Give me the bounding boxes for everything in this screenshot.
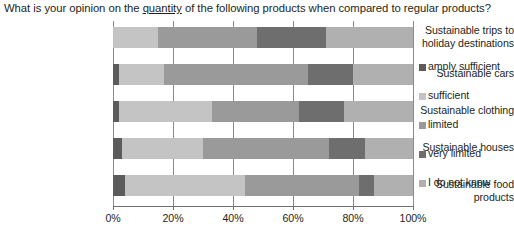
category-label: Sustainable trips toholiday destinations	[406, 24, 514, 49]
bar-row	[113, 27, 413, 48]
legend-label: I do not know	[428, 176, 490, 189]
chart-title-part1: What is your opinion on the	[4, 2, 143, 14]
legend-label: amply sufficient	[428, 60, 500, 73]
stacked-bar-chart: What is your opinion on the quantity of …	[0, 0, 514, 242]
legend-label: sufficient	[428, 89, 469, 102]
bar-segment	[158, 27, 257, 48]
chart-title-emphasis: quantity	[143, 2, 182, 14]
legend-label: limited	[428, 118, 458, 131]
bar-segment	[374, 175, 413, 196]
bar-row	[113, 175, 413, 196]
bar-segment	[326, 27, 413, 48]
chart-title-part2: of the following products when compared …	[182, 2, 491, 14]
bar-segment	[119, 101, 212, 122]
bar-segment	[353, 64, 413, 85]
bar-segment	[113, 138, 122, 159]
legend-swatch-icon	[419, 93, 426, 100]
bar-segment	[245, 175, 359, 196]
x-axis-tick-label: 20%	[153, 212, 193, 224]
x-axis-tick-label: 100%	[393, 212, 433, 224]
bar-segment	[164, 64, 308, 85]
bar-segment	[113, 27, 158, 48]
bar-segment	[299, 101, 344, 122]
bar-row	[113, 101, 413, 122]
plot-area	[113, 21, 413, 206]
x-axis-tick	[173, 206, 174, 210]
bar-segment	[113, 175, 125, 196]
legend-swatch-icon	[419, 122, 426, 129]
x-axis-tick	[113, 206, 114, 210]
x-axis-tick-label: 0%	[93, 212, 133, 224]
bar-segment	[308, 64, 353, 85]
bar-segment	[203, 138, 329, 159]
x-axis-tick	[353, 206, 354, 210]
legend-swatch-icon	[419, 151, 426, 158]
x-axis-baseline	[113, 206, 414, 207]
bar-segment	[365, 138, 413, 159]
gridline	[413, 21, 414, 206]
bar-segment	[344, 101, 413, 122]
bar-segment	[359, 175, 374, 196]
bar-segment	[257, 27, 326, 48]
x-axis-tick	[233, 206, 234, 210]
x-axis-tick-label: 80%	[333, 212, 373, 224]
bar-segment	[329, 138, 365, 159]
x-axis-tick-label: 40%	[213, 212, 253, 224]
bar-segment	[212, 101, 299, 122]
bar-row	[113, 64, 413, 85]
x-axis-tick	[413, 206, 414, 210]
legend-label: very limited	[428, 147, 481, 160]
bar-segment	[122, 138, 203, 159]
x-axis-tick	[293, 206, 294, 210]
bar-segment	[119, 64, 164, 85]
chart-title: What is your opinion on the quantity of …	[4, 1, 512, 15]
category-label: Sustainable clothing	[406, 104, 514, 117]
bar-row	[113, 138, 413, 159]
bar-segment	[125, 175, 245, 196]
x-axis-tick-label: 60%	[273, 212, 313, 224]
legend-swatch-icon	[419, 180, 426, 187]
legend-swatch-icon	[419, 64, 426, 71]
